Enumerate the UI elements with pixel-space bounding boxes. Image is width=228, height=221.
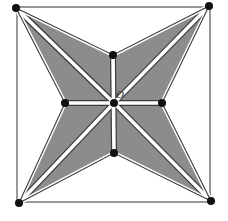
vertex-bottom-dot <box>110 149 118 157</box>
vertex-top-dot <box>109 51 117 59</box>
vertex-a-dot <box>12 4 20 12</box>
center-o-dot <box>110 99 118 107</box>
center-label: O <box>116 89 124 100</box>
vertex-c-dot <box>207 197 215 205</box>
vertex-b-dot <box>205 2 213 10</box>
diagram-canvas: O <box>0 0 228 221</box>
vertex-left-dot <box>61 99 69 107</box>
vertex-right-dot <box>158 99 166 107</box>
vertex-d-dot <box>15 199 23 207</box>
